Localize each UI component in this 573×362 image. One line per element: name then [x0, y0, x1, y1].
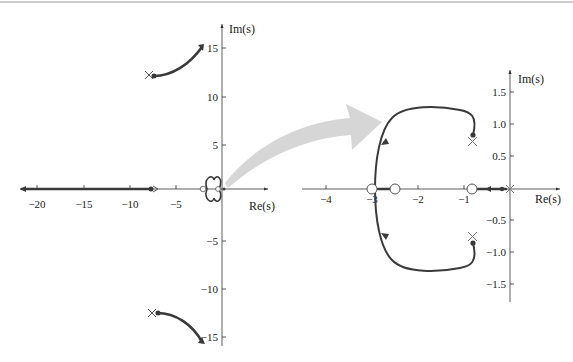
zero-marker-icon: [367, 184, 377, 194]
pole-marker-icon: [468, 137, 477, 146]
right-imag-axis-label: Im(s): [518, 72, 544, 86]
right-ytick: 1.5: [492, 86, 506, 98]
left-plot: −20 −15 −10 −5 15 10 5 −5 −10 −15 Im(s) …: [20, 22, 275, 346]
left-lower-branch: [157, 313, 202, 342]
left-ytick: 15: [207, 42, 219, 54]
right-lower-arrowhead-icon: [381, 233, 389, 240]
right-xtick: −1: [458, 193, 470, 205]
pole-marker-icon: [148, 309, 156, 317]
left-upper-branch: [154, 47, 202, 76]
left-poles: [145, 71, 158, 317]
right-ytick: 0.5: [492, 150, 506, 162]
right-xtick: −2: [412, 193, 424, 205]
left-xtick: −15: [75, 198, 93, 210]
left-ytick: −10: [201, 283, 219, 295]
left-real-axis-label: Re(s): [249, 199, 275, 213]
left-imag-axis-label: Im(s): [229, 22, 255, 36]
right-ytick: −1.5: [486, 278, 506, 290]
right-upper-branch: [375, 107, 475, 189]
left-xtick: −10: [121, 198, 139, 210]
zoom-arrow-icon: [225, 104, 382, 188]
right-ytick: −0.5: [486, 214, 506, 226]
right-real-arrowhead-icon: [485, 186, 491, 192]
left-ytick: −5: [206, 235, 218, 247]
left-xtick: −5: [170, 198, 182, 210]
pole-marker-icon: [468, 232, 477, 241]
right-xtick: −4: [320, 193, 332, 205]
right-real-axis-label: Re(s): [535, 192, 561, 206]
left-xtick: −20: [28, 198, 46, 210]
left-ytick: 5: [213, 139, 219, 151]
right-ytick: −1.0: [486, 246, 506, 258]
right-plot: −4 −3 −2 −1 1.5 1.0 0.5 −0.5 −1.0 −1.5 I…: [302, 70, 561, 302]
zero-marker-icon: [467, 184, 477, 194]
zero-marker-icon: [390, 184, 400, 194]
right-ytick: 1.0: [492, 118, 506, 130]
left-ytick: 10: [207, 91, 219, 103]
left-real-arrowhead-icon: [20, 186, 26, 192]
root-locus-figure: −20 −15 −10 −5 15 10 5 −5 −10 −15 Im(s) …: [0, 0, 573, 362]
right-upper-arrowhead-icon: [381, 138, 389, 145]
right-xtick: −3: [366, 193, 378, 205]
